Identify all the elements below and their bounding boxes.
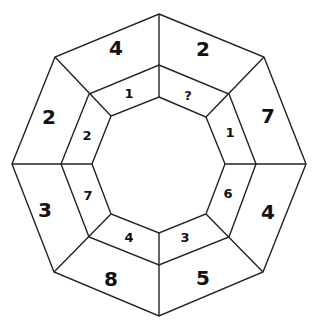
inner-cell-right-bottom: 6 xyxy=(223,186,232,201)
inner-cell-left-top: 2 xyxy=(82,128,91,143)
inner-cell-top-left: 1 xyxy=(124,86,133,101)
inner-cell-right-top: 1 xyxy=(225,125,234,140)
outer-cell-top-right: 2 xyxy=(196,37,210,61)
inner-cell-bottom-left: 4 xyxy=(124,230,133,245)
outer-cell-left-top: 2 xyxy=(42,105,56,129)
inner-cell-top-right: ? xyxy=(184,88,192,103)
radial-dividers xyxy=(12,14,306,316)
outer-cell-bottom-right: 5 xyxy=(196,266,210,290)
inner-octagon xyxy=(92,97,225,233)
outer-cell-top-left: 4 xyxy=(109,36,123,60)
outer-cell-right-top: 7 xyxy=(261,104,275,128)
inner-cell-bottom-right: 3 xyxy=(180,230,189,245)
outer-cell-right-bottom: 4 xyxy=(261,200,275,224)
inner-cell-left-bottom: 7 xyxy=(83,188,92,203)
octagon-puzzle-diagram: 4 2 7 4 5 8 3 2 1 ? 1 6 3 4 7 2 xyxy=(0,0,320,328)
outer-cell-bottom-left: 8 xyxy=(104,267,118,291)
outer-cell-left-bottom: 3 xyxy=(38,198,52,222)
